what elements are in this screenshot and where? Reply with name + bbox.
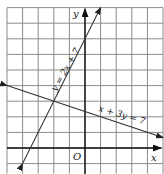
x-axis-label: x — [151, 152, 157, 163]
y-axis-label: y — [72, 8, 79, 19]
line2-equation-label: x + 3y = 7 — [97, 103, 146, 126]
origin-label: O — [73, 151, 81, 162]
coordinate-graph: y x O y = 2x + 7 x + 3y = 7 — [0, 0, 164, 174]
